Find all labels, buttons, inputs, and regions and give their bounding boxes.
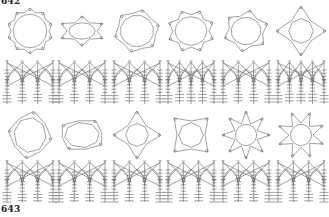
vault-plan-drawing — [174, 118, 208, 152]
vault-elevation-drawing — [219, 160, 274, 202]
vault-panel — [55, 121, 110, 202]
vault-elevation-drawing — [219, 60, 274, 104]
vault-panel — [3, 111, 58, 202]
vault-plan-drawing — [113, 111, 161, 159]
vault-elevation-drawing — [55, 160, 110, 202]
vault-elevation-drawing — [274, 60, 329, 104]
vault-plan-drawing — [61, 16, 103, 46]
figure-row-643 — [3, 111, 329, 202]
vault-plan-drawing — [222, 111, 270, 159]
vault-elevation-drawing — [274, 160, 329, 202]
vault-plan-drawing — [8, 8, 52, 54]
figure-row-642 — [3, 6, 329, 104]
vault-elevation-drawing — [55, 60, 110, 104]
vault-panel — [110, 10, 165, 104]
vault-plan-drawing — [169, 11, 214, 51]
vault-plan-drawing — [62, 121, 101, 150]
vault-plan-drawing — [276, 6, 326, 56]
vault-panel — [55, 16, 110, 104]
vault-plan-drawing — [279, 113, 324, 158]
vault-elevation-drawing — [110, 160, 165, 202]
vault-plan-drawing — [224, 10, 267, 52]
vault-elevation-drawing — [164, 160, 219, 202]
vault-plans-and-elevations-plate — [0, 0, 329, 217]
vault-plan-drawing — [8, 111, 51, 158]
vault-elevation-drawing — [3, 60, 58, 104]
vault-panel — [164, 11, 219, 104]
vault-elevation-drawing — [110, 60, 165, 104]
vault-panel — [219, 111, 274, 202]
vault-panel — [274, 6, 329, 104]
vault-panel — [3, 8, 58, 104]
vault-panel — [274, 113, 329, 202]
vault-panel — [110, 111, 165, 202]
vault-elevation-drawing — [164, 60, 219, 104]
vault-plan-drawing — [115, 10, 159, 52]
vault-elevation-drawing — [3, 160, 58, 202]
vault-panel — [164, 118, 219, 202]
vault-panel — [219, 10, 274, 104]
